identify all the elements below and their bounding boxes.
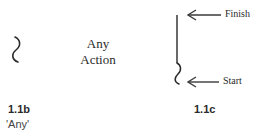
finish-arrow-icon: [188, 10, 221, 20]
squiggle-icon: [13, 37, 20, 62]
any-action-line1: Any: [68, 36, 128, 52]
any-action-text: Any Action: [68, 36, 128, 68]
start-arrow-icon: [188, 77, 219, 87]
figure-label-1-1b: 1.1b: [8, 103, 30, 115]
any-action-line2: Action: [68, 52, 128, 68]
finish-label: Finish: [225, 8, 250, 19]
line-with-squiggle-icon: [175, 15, 180, 84]
start-label: Start: [223, 75, 242, 86]
figure-caption-any: 'Any': [6, 118, 29, 130]
figure-label-1-1c: 1.1c: [194, 103, 215, 115]
diagram-canvas: [0, 0, 264, 137]
